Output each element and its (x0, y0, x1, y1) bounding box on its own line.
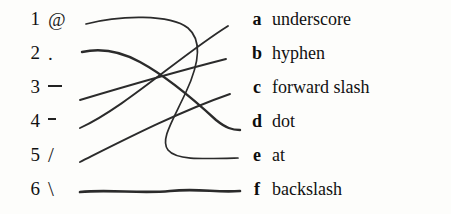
connector-2-to-d (82, 50, 240, 130)
at-sign-glyph: @ (48, 10, 65, 29)
word-hyphen[interactable]: hyphen (272, 36, 451, 70)
letter-label: d (252, 111, 262, 132)
number-label: 6 (31, 178, 41, 200)
word-label: underscore (272, 9, 351, 30)
number-label: 4 (31, 110, 41, 132)
connector-4-to-a (80, 26, 228, 128)
connector-3-to-b (80, 59, 226, 100)
number-1: 1 (0, 2, 40, 36)
word-label: backslash (272, 179, 342, 200)
number-4: 4 (0, 104, 40, 138)
connector-6-to-f (80, 190, 240, 192)
numbers-column: 1 2 3 4 5 6 (0, 0, 40, 214)
word-underscore[interactable]: underscore (272, 2, 451, 36)
symbol-underscore[interactable] (42, 70, 78, 104)
word-label: forward slash (272, 77, 369, 98)
word-forward-slash[interactable]: forward slash (272, 70, 451, 104)
letter-a[interactable]: a (246, 2, 268, 36)
number-2: 2 (0, 36, 40, 70)
underscore-glyph (48, 85, 62, 87)
period-glyph: . (48, 44, 53, 63)
letter-label: f (254, 179, 260, 200)
number-label: 3 (31, 76, 41, 98)
word-label: at (272, 145, 285, 166)
symbol-hyphen[interactable] (42, 104, 78, 138)
number-label: 1 (31, 8, 41, 30)
number-label: 2 (31, 42, 41, 64)
number-5: 5 (0, 138, 40, 172)
connector-1-to-e (86, 17, 238, 158)
word-label: dot (272, 111, 295, 132)
symbols-column: @ . / \ (42, 0, 78, 214)
hyphen-glyph (48, 118, 56, 120)
letter-label: b (252, 43, 262, 64)
letters-column: a b c d e f (246, 0, 268, 214)
matching-exercise: 1 2 3 4 5 6 @ . / \ (0, 0, 451, 214)
letter-label: e (253, 145, 261, 166)
symbol-slash[interactable]: / (42, 138, 78, 172)
symbol-backslash[interactable]: \ (42, 172, 78, 206)
slash-glyph: / (48, 145, 54, 166)
connector-5-to-c (80, 94, 230, 162)
symbol-period[interactable]: . (42, 36, 78, 70)
word-at[interactable]: at (272, 138, 451, 172)
letter-b[interactable]: b (246, 36, 268, 70)
number-3: 3 (0, 70, 40, 104)
word-dot[interactable]: dot (272, 104, 451, 138)
number-label: 5 (31, 144, 41, 166)
words-column: underscore hyphen forward slash dot at b… (272, 0, 451, 214)
letter-c[interactable]: c (246, 70, 268, 104)
letter-f[interactable]: f (246, 172, 268, 206)
backslash-glyph: \ (48, 179, 54, 200)
symbol-at-sign[interactable]: @ (42, 2, 78, 36)
letter-label: c (253, 77, 261, 98)
letter-e[interactable]: e (246, 138, 268, 172)
letter-d[interactable]: d (246, 104, 268, 138)
letter-label: a (253, 9, 262, 30)
number-6: 6 (0, 172, 40, 206)
word-label: hyphen (272, 43, 325, 64)
word-backslash[interactable]: backslash (272, 172, 451, 206)
